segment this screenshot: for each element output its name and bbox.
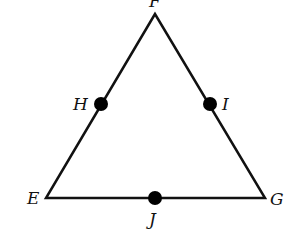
label-f: F bbox=[148, 0, 162, 11]
point-i bbox=[203, 97, 217, 111]
label-g: G bbox=[270, 189, 284, 209]
point-j bbox=[148, 191, 162, 205]
triangle-diagram: F E G H I J bbox=[0, 0, 291, 247]
label-i: I bbox=[221, 94, 229, 114]
label-h: H bbox=[72, 94, 89, 114]
point-h bbox=[94, 97, 108, 111]
label-j: J bbox=[146, 209, 157, 229]
label-e: E bbox=[26, 188, 40, 208]
